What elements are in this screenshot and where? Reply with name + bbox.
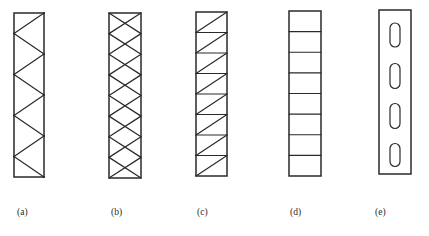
battens-column [289,11,321,176]
double-lacing-column [109,13,141,178]
lacing-bar [14,34,44,55]
perforation-slot [390,144,400,167]
caption-tag: (d) [290,207,319,218]
lacing-bar [196,12,227,33]
lacing-bar [196,135,227,156]
lacing-bar [196,33,227,54]
caption-double-lacing: (b) Double lacing [111,186,139,236]
lacing-bar [14,13,44,34]
caption-tag: (c) [197,207,224,218]
column-outline [109,13,141,178]
column-outline [379,10,411,174]
perforation-slot [390,23,400,47]
lacing-bar [14,95,44,116]
lacing-bar [196,115,227,136]
lacing-bar [14,157,44,178]
single-lacing-column [13,12,45,178]
caption-lacing-and-battens: (c) Lacing and battens [197,186,224,236]
perforation-slot [390,64,400,89]
lacing-bar [196,94,227,115]
caption-tag: (e) [375,207,415,218]
lacing-bar [14,75,44,96]
caption-tag: (b) [111,207,139,218]
caption-perforated-plates: (e) Perforated plates [375,186,415,236]
lacing-bar [196,53,227,74]
perforated-plates-column [379,10,411,174]
lacing-bar [14,136,44,157]
caption-battens: (d) Battens [290,186,319,236]
lacing-and-battens-column [196,12,227,176]
lacing-bar [14,54,44,75]
column-outline [14,13,44,177]
lacing-bar [196,74,227,95]
caption-single-lacing: (a) Single lacing [17,186,41,236]
lacing-bar [196,156,227,177]
perforation-slot [390,104,400,129]
caption-tag: (a) [17,207,41,218]
lacing-bar [14,116,44,137]
